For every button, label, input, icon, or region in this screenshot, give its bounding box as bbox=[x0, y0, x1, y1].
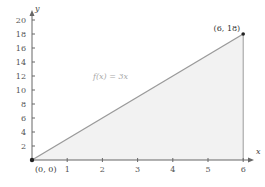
y-tick-label: 16 bbox=[16, 44, 26, 53]
x-tick-label: 6 bbox=[241, 165, 246, 174]
y-tick-label: 12 bbox=[16, 72, 26, 81]
chart: 1234562468101214161820xy(0, 0)(6, 18)f(x… bbox=[0, 0, 265, 187]
endpoint-point bbox=[241, 32, 245, 36]
function-label: f(x) = 3x bbox=[92, 72, 129, 81]
y-tick-label: 18 bbox=[16, 30, 26, 39]
x-axis-label: x bbox=[256, 147, 261, 156]
y-axis-arrow-icon bbox=[30, 10, 35, 16]
x-tick-label: 4 bbox=[170, 165, 175, 174]
y-axis-label: y bbox=[34, 4, 40, 13]
x-tick-label: 1 bbox=[65, 165, 70, 174]
y-tick-label: 2 bbox=[21, 142, 26, 151]
y-tick-label: 14 bbox=[16, 58, 26, 67]
origin-point bbox=[30, 158, 34, 162]
endpoint-label: (6, 18) bbox=[214, 24, 241, 33]
y-tick-label: 8 bbox=[21, 100, 26, 109]
x-tick-label: 5 bbox=[205, 165, 210, 174]
y-tick-label: 4 bbox=[21, 128, 26, 137]
y-tick-label: 20 bbox=[16, 16, 26, 25]
x-tick-label: 2 bbox=[100, 165, 105, 174]
origin-label: (0, 0) bbox=[35, 165, 57, 174]
y-tick-label: 6 bbox=[21, 114, 26, 123]
x-axis-arrow-icon bbox=[248, 158, 254, 163]
x-tick-label: 3 bbox=[135, 165, 140, 174]
y-tick-label: 10 bbox=[16, 86, 26, 95]
